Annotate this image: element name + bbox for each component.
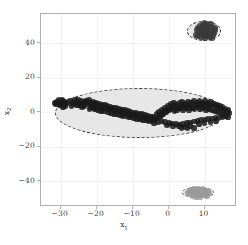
x-tick-label: 10: [189, 209, 219, 219]
y-tick-label: −40: [9, 176, 35, 185]
scatter-plot-figure: x1 x2 −30−20−1001040200−20−40: [0, 0, 248, 245]
gridline-horizontal: [41, 147, 235, 148]
gridline-horizontal: [41, 78, 235, 79]
x-axis-label: x1: [0, 220, 248, 231]
data-point: [193, 32, 199, 38]
data-point: [220, 114, 226, 120]
y-tick-label: 0: [9, 107, 35, 116]
y-tick-label: 40: [9, 38, 35, 47]
data-point: [201, 33, 207, 39]
x-axis-label-sub: 1: [124, 225, 128, 231]
y-tick-mark: [37, 111, 40, 112]
gridline-horizontal: [41, 43, 235, 44]
gridline-horizontal: [41, 181, 235, 182]
y-tick-mark: [37, 180, 40, 181]
data-point: [211, 30, 217, 36]
data-point: [60, 104, 66, 110]
x-tick-label: −20: [81, 209, 111, 219]
data-point: [191, 125, 197, 131]
data-point: [87, 106, 93, 112]
y-tick-mark: [37, 42, 40, 43]
x-tick-label: −10: [117, 209, 147, 219]
plot-area: [40, 13, 236, 206]
y-tick-mark: [37, 77, 40, 78]
x-tick-label: −30: [45, 209, 75, 219]
y-tick-label: 20: [9, 72, 35, 81]
data-point: [208, 21, 214, 27]
data-point: [206, 190, 212, 196]
y-tick-label: −20: [9, 141, 35, 150]
y-tick-mark: [37, 146, 40, 147]
x-tick-label: 0: [153, 209, 183, 219]
data-point: [197, 194, 203, 200]
data-point: [196, 121, 202, 127]
data-point: [185, 125, 191, 131]
data-point: [213, 118, 219, 124]
data-point: [225, 114, 231, 120]
data-point: [69, 103, 75, 109]
data-point: [72, 97, 78, 103]
